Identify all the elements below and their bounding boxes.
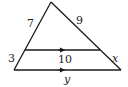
left-side xyxy=(14,2,51,70)
label-lower-right: x xyxy=(112,52,119,65)
label-parallel-segment: 10 xyxy=(58,53,72,66)
triangle-diagram: 7 9 3 x 10 y xyxy=(0,0,128,87)
label-upper-right: 9 xyxy=(76,14,83,27)
label-upper-left: 7 xyxy=(27,17,34,30)
label-lower-left: 3 xyxy=(8,52,15,65)
label-base: y xyxy=(63,73,71,86)
